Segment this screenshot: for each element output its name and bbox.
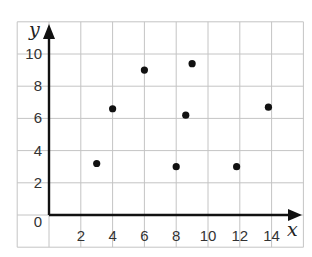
y-tick-label: 8 [34,77,42,94]
x-tick-label: 12 [231,227,248,244]
y-axis-arrow-icon [43,24,55,39]
x-axis-label: x [287,218,298,240]
y-tick-label: 6 [34,109,42,126]
data-point [109,105,116,112]
y-tick-label: 0 [34,213,42,230]
x-tick-label: 14 [263,227,280,244]
x-tick-label: 2 [77,227,85,244]
y-tick-label: 4 [34,142,42,159]
x-tick-label: 10 [200,227,217,244]
data-point [141,67,148,74]
x-tick-label: 6 [140,227,148,244]
data-point [189,60,196,67]
data-point [173,163,180,170]
y-tick-label: 2 [34,174,42,191]
data-point [265,104,272,111]
data-point [233,163,240,170]
axes: x y [28,18,302,240]
x-tick-labels: 2468101214 [77,227,280,244]
y-tick-labels: 0246810 [25,45,42,230]
data-points [93,60,272,170]
data-point [182,112,189,119]
data-point [93,160,100,167]
y-axis-label: y [28,18,40,40]
grid-lines [17,22,303,247]
x-tick-label: 8 [172,227,180,244]
x-tick-label: 4 [108,227,116,244]
y-tick-label: 10 [25,45,42,62]
scatter-plot: x y 2468101214 0246810 [0,0,312,257]
